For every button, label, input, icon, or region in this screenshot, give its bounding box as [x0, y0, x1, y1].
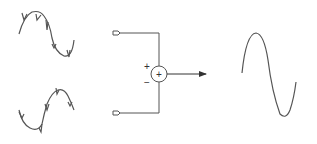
- plus-sign: +: [144, 61, 150, 72]
- minus-sign: −: [144, 77, 150, 88]
- top-input-wire: [113, 31, 159, 66]
- noisy-signal-b-waveform: [19, 88, 74, 132]
- clean-signal-waveform: [242, 33, 296, 116]
- summing-junction: + + −: [144, 61, 167, 88]
- summer-label: +: [156, 69, 162, 80]
- noisy-signal-a-waveform: [19, 12, 74, 58]
- diagram-canvas: + + −: [0, 0, 317, 144]
- bottom-input-wire: [113, 82, 159, 115]
